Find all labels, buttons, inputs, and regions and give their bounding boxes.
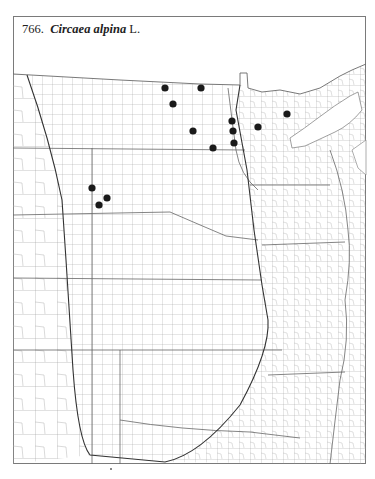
occurrence-dot [254, 123, 261, 130]
page-mark [110, 468, 112, 470]
occurrence-dot [229, 127, 236, 134]
occurrence-dot [95, 201, 102, 208]
occurrence-dot [189, 127, 196, 134]
occurrence-dot [103, 194, 110, 201]
occurrence-dot [209, 144, 216, 151]
occurrence-dot [283, 110, 290, 117]
distribution-map [0, 0, 375, 479]
occurrence-dot [228, 117, 235, 124]
occurrence-dot [169, 100, 176, 107]
occurrence-dot [230, 139, 237, 146]
occurrence-dot [197, 84, 204, 91]
occurrence-dot [161, 84, 168, 91]
occurrence-dot [88, 184, 95, 191]
